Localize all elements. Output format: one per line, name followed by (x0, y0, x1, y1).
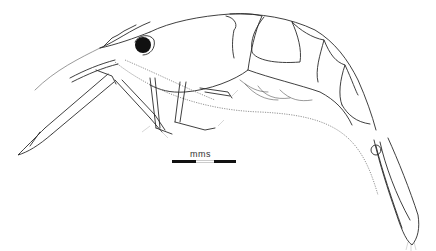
antenna-1 (35, 48, 100, 90)
segment-2 (252, 17, 301, 63)
leg-4 (200, 88, 232, 98)
antennal-scale (70, 60, 118, 82)
scale-bar-segment-3 (214, 160, 236, 163)
segment-5 (345, 65, 358, 95)
segment-4 (324, 40, 345, 105)
telson-setae (406, 242, 416, 251)
eye (135, 37, 151, 53)
leg-setae (142, 90, 238, 138)
segment-3 (292, 22, 324, 82)
segment-1 (226, 16, 236, 58)
carapace (150, 14, 262, 93)
antenna-2 (115, 62, 378, 195)
shrimp-illustration (0, 0, 436, 251)
pleopods (240, 80, 312, 101)
cheliped (18, 74, 114, 155)
antenna-3 (125, 60, 215, 100)
scale-bar-segment-1 (172, 160, 196, 163)
uropod (376, 142, 410, 228)
scale-bar-label: mms (190, 149, 211, 159)
scale-bar-segment-2 (196, 160, 214, 163)
